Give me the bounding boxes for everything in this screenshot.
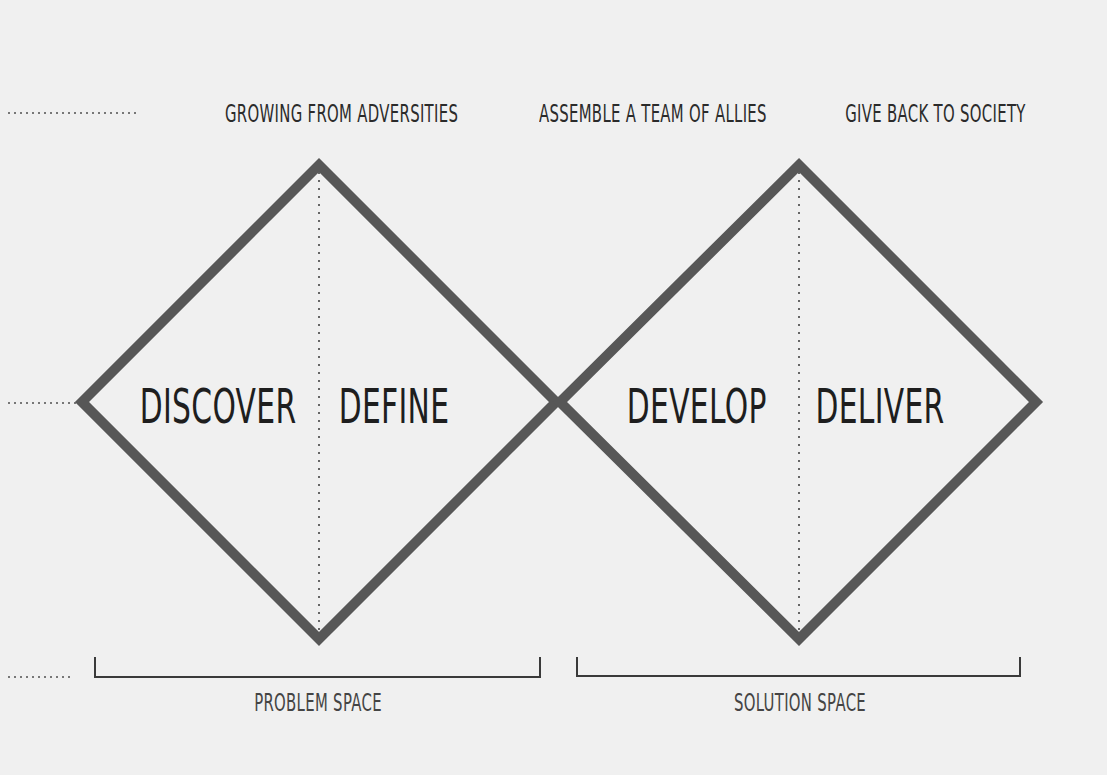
top-label-assemble-team-of-allies: ASSEMBLE A TEAM OF ALLIES <box>539 98 725 130</box>
top-label-give-back-to-society: GIVE BACK TO SOCIETY <box>845 98 1019 130</box>
top-label-growing-from-adversities: GROWING FROM ADVERSITIES <box>225 98 411 130</box>
space-label-solution-space: SOLUTION SPACE <box>726 686 875 720</box>
phase-label-discover: DISCOVER <box>140 378 276 434</box>
phase-label-define: DEFINE <box>332 378 456 434</box>
phase-label-develop: DEVELOP <box>627 378 763 434</box>
solution-space-bracket <box>577 657 1020 676</box>
problem-space-bracket <box>95 657 540 677</box>
phase-label-deliver: DELIVER <box>812 378 948 434</box>
space-label-problem-space: PROBLEM SPACE <box>244 686 393 720</box>
